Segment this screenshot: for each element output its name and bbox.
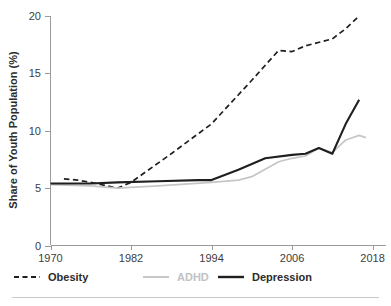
x-tick-label: 2006 [280, 252, 304, 264]
legend-label-depression: Depression [252, 271, 312, 283]
x-tick-label: 2018 [360, 252, 384, 264]
y-axis-ticks: 05101520 [29, 10, 51, 252]
y-tick-label: 5 [35, 182, 41, 194]
chart-container: Share of Youth Population (%) 05101520 1… [0, 0, 391, 306]
x-tick-label: 1970 [38, 252, 62, 264]
legend-label-adhd: ADHD [177, 271, 209, 283]
x-tick-label: 1982 [119, 252, 143, 264]
y-tick-label: 20 [29, 10, 41, 22]
line-chart: Share of Youth Population (%) 05101520 1… [0, 0, 391, 306]
x-tick-label: 1994 [199, 252, 223, 264]
y-tick-label: 10 [29, 125, 41, 137]
y-axis-title: Share of Youth Population (%) [7, 51, 19, 209]
legend-group: ObesityADHDDepression [14, 271, 312, 283]
legend-label-obesity: Obesity [48, 271, 89, 283]
series-group [51, 16, 366, 188]
series-line-depression [51, 100, 360, 184]
series-line-obesity [64, 16, 359, 188]
y-tick-label: 15 [29, 67, 41, 79]
x-axis-ticks: 19701982199420062018 [38, 246, 385, 265]
y-tick-label: 0 [35, 240, 41, 252]
